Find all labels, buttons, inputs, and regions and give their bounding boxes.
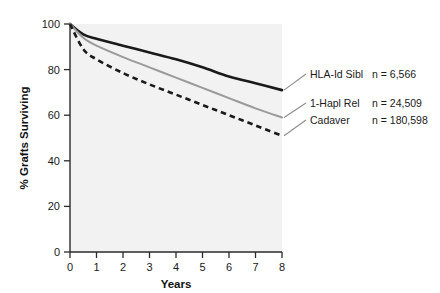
- y-tick-label-60: 60: [48, 109, 60, 121]
- x-tick-label-3: 3: [146, 261, 152, 273]
- y-tick-label-40: 40: [48, 155, 60, 167]
- legend-leader-line-hla-id-sibl: [284, 74, 306, 90]
- legend-leader-line-cadaver: [284, 120, 306, 136]
- legend-count-hla-id-sibl: n = 6,566: [372, 68, 416, 80]
- y-tick-label-20: 20: [48, 200, 60, 212]
- y-tick-label-80: 80: [48, 64, 60, 76]
- legend-label-1-hapl-rel: 1-Hapl Rel: [310, 97, 360, 109]
- x-tick-label-1: 1: [93, 261, 99, 273]
- y-tick-label-0: 0: [54, 246, 60, 258]
- x-tick-label-8: 8: [279, 261, 285, 273]
- x-tick-label-2: 2: [120, 261, 126, 273]
- legend-count-cadaver: n = 180,598: [372, 114, 428, 126]
- x-tick-label-4: 4: [173, 261, 179, 273]
- x-axis: 0 1 2 3 4 5 6 7 8: [67, 252, 285, 273]
- y-axis: 100 80 60 40 20 0: [42, 18, 70, 258]
- chart-canvas: 100 80 60 40 20 0 % Grafts Surviving 0 1…: [0, 0, 440, 293]
- y-axis-title: % Grafts Surviving: [18, 87, 30, 190]
- x-axis-title: Years: [161, 278, 192, 290]
- legend: HLA-Id Sibl n = 6,566 1-Hapl Rel n = 24,…: [284, 68, 428, 136]
- x-tick-label-5: 5: [199, 261, 205, 273]
- survival-curve-figure: 100 80 60 40 20 0 % Grafts Surviving 0 1…: [0, 0, 440, 293]
- x-tick-label-6: 6: [226, 261, 232, 273]
- y-tick-label-100: 100: [42, 18, 60, 30]
- x-tick-label-7: 7: [252, 261, 258, 273]
- legend-leader-line-1-hapl-rel: [284, 103, 306, 117]
- legend-label-hla-id-sibl: HLA-Id Sibl: [310, 68, 363, 80]
- x-tick-label-0: 0: [67, 261, 73, 273]
- legend-count-1-hapl-rel: n = 24,509: [372, 97, 422, 109]
- legend-label-cadaver: Cadaver: [310, 114, 350, 126]
